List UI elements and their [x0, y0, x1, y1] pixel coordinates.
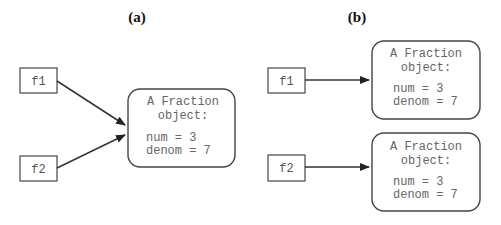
fraction-object: A Fraction object: num = 3 denom = 7	[128, 89, 235, 167]
object-title: A Fraction	[147, 95, 219, 109]
panel-label: (a)	[128, 9, 146, 26]
object-title: A Fraction	[390, 140, 462, 154]
field-denom: denom = 7	[146, 144, 211, 158]
reference-arrow	[57, 135, 125, 168]
field-num: num = 3	[393, 82, 443, 96]
panel-a: (a) f1 f2 A Fraction object: num = 3 den…	[20, 9, 235, 181]
field-num: num = 3	[146, 131, 196, 145]
field-denom: denom = 7	[393, 188, 458, 202]
object-subtitle: object:	[401, 61, 451, 75]
field-num: num = 3	[393, 175, 443, 189]
variable-f1: f1	[268, 68, 305, 93]
panel-b: (b) f1 f2 A Fraction object: num = 3 den…	[268, 9, 480, 211]
variable-name: f1	[31, 75, 45, 89]
panel-label: (b)	[348, 9, 366, 26]
variable-name: f2	[279, 162, 293, 176]
variable-name: f2	[31, 163, 45, 177]
fraction-object: A Fraction object: num = 3 denom = 7	[372, 41, 480, 119]
variable-f1: f1	[20, 68, 57, 93]
fraction-object: A Fraction object: num = 3 denom = 7	[372, 133, 480, 211]
field-denom: denom = 7	[393, 95, 458, 109]
variable-f2: f2	[20, 156, 57, 181]
object-subtitle: object:	[401, 154, 451, 168]
variable-f2: f2	[268, 155, 305, 181]
object-title: A Fraction	[390, 47, 462, 61]
diagram-canvas: (a) f1 f2 A Fraction object: num = 3 den…	[0, 0, 501, 225]
reference-arrow	[57, 81, 125, 125]
object-subtitle: object:	[158, 109, 208, 123]
variable-name: f1	[279, 75, 293, 89]
